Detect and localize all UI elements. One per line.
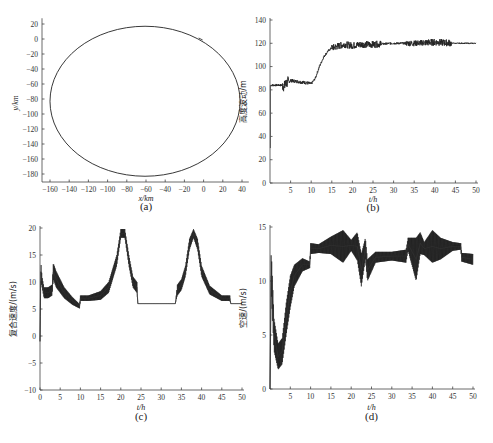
- x-tick-label: −60: [140, 185, 152, 194]
- x-tick-label: 10: [307, 392, 315, 401]
- y-tick-label: 40: [259, 132, 267, 141]
- y-tick-label: 10: [29, 278, 37, 287]
- y-tick-label: 20: [29, 224, 37, 233]
- y-tick-label: −20: [26, 50, 38, 59]
- panel-caption: (a): [140, 200, 153, 213]
- panel-b-height-fluctuation: 0204060801001201405101520253035404550t/h…: [238, 16, 480, 215]
- panel-c-combined-speed: −10−50510152005101520253035404550t/h复合速度…: [8, 224, 246, 424]
- x-tick-label: 20: [219, 185, 227, 194]
- x-tick-label: 35: [408, 392, 416, 401]
- x-tick-label: 25: [368, 392, 376, 401]
- mean-series: [40, 233, 242, 341]
- x-tick-label: 5: [58, 393, 62, 402]
- x-tick-label: 35: [178, 393, 186, 402]
- y-tick-label: 15: [29, 251, 37, 260]
- x-tick-label: 5: [288, 392, 292, 401]
- x-tick-label: −160: [42, 185, 58, 194]
- y-tick-label: −160: [23, 155, 39, 164]
- x-tick-label: 0: [202, 185, 206, 194]
- x-tick-label: 45: [218, 393, 226, 402]
- oscillation-band: [40, 229, 242, 341]
- y-tick-label: −100: [23, 110, 39, 119]
- y-tick-label: −140: [23, 140, 39, 149]
- x-tick-label: 50: [469, 392, 477, 401]
- panel-d-airspeed: 0510155101520253035404550t/h空速/(m/s)(d): [238, 223, 477, 424]
- x-tick-label: 40: [429, 392, 437, 401]
- x-tick-label: 20: [347, 392, 355, 401]
- x-tick-label: 50: [472, 186, 480, 195]
- x-tick-label: 5: [289, 186, 293, 195]
- y-tick-label: −180: [23, 170, 39, 179]
- x-tick-label: 15: [327, 392, 335, 401]
- oscillation-band: [270, 230, 473, 389]
- x-tick-label: 45: [452, 186, 460, 195]
- y-tick-label: 10: [259, 277, 267, 286]
- x-tick-label: 45: [449, 392, 457, 401]
- x-tick-label: −120: [81, 185, 97, 194]
- x-tick-label: 15: [97, 393, 105, 402]
- figure-canvas: 200−20−40−60−80−100−120−140−160−180−160−…: [0, 0, 493, 443]
- y-tick-label: −10: [24, 386, 36, 395]
- x-tick-label: 40: [431, 186, 439, 195]
- panel-caption: (b): [367, 201, 380, 214]
- x-tick-label: 25: [137, 393, 145, 402]
- y-tick-label: 120: [255, 39, 267, 48]
- y-tick-label: 0: [262, 385, 266, 394]
- y-tick-label: 20: [259, 155, 267, 164]
- y-axis-title: 空速/(m/s): [238, 288, 248, 328]
- x-tick-label: −20: [179, 185, 191, 194]
- y-tick-label: 80: [259, 85, 267, 94]
- y-tick-label: −60: [26, 80, 38, 89]
- y-tick-label: 0: [34, 35, 38, 44]
- x-tick-label: 25: [369, 186, 377, 195]
- x-tick-label: −80: [121, 185, 133, 194]
- y-tick-label: 5: [32, 305, 36, 314]
- x-tick-label: 50: [238, 393, 246, 402]
- panel-caption: (d): [365, 410, 378, 423]
- height-series: [271, 39, 476, 91]
- x-tick-label: −40: [159, 185, 171, 194]
- x-tick-label: 20: [349, 186, 357, 195]
- y-tick-label: 20: [31, 20, 39, 29]
- x-tick-label: −140: [61, 185, 77, 194]
- y-tick-label: 140: [255, 16, 267, 25]
- x-tick-label: 40: [198, 393, 206, 402]
- x-tick-label: 35: [410, 186, 418, 195]
- x-tick-label: 40: [238, 185, 246, 194]
- panel-a-trajectory: 200−20−40−60−80−100−120−140−160−180−160−…: [11, 18, 249, 213]
- y-tick-label: 0: [32, 332, 36, 341]
- y-axis-title: y/km: [11, 95, 20, 111]
- y-tick-label: −5: [28, 359, 36, 368]
- y-axis-title: 高度波动/m: [238, 80, 248, 123]
- x-tick-label: 0: [38, 393, 42, 402]
- x-tick-label: 30: [390, 186, 398, 195]
- x-tick-label: 15: [328, 186, 336, 195]
- x-tick-label: −100: [100, 185, 116, 194]
- panel-caption: (c): [135, 410, 148, 423]
- x-tick-label: 10: [77, 393, 85, 402]
- x-tick-label: 20: [117, 393, 125, 402]
- x-tick-label: 30: [157, 393, 165, 402]
- y-tick-label: 100: [255, 62, 267, 71]
- x-tick-label: 10: [307, 186, 315, 195]
- y-tick-label: 5: [262, 331, 266, 340]
- trajectory-ellipse: [50, 26, 240, 176]
- y-axis-title: 复合速度/(m/s): [8, 281, 18, 337]
- y-tick-label: −120: [23, 125, 39, 134]
- y-tick-label: −80: [26, 95, 38, 104]
- y-tick-label: 15: [259, 223, 267, 232]
- y-tick-label: 0: [262, 179, 266, 188]
- y-tick-label: −40: [26, 65, 38, 74]
- x-tick-label: 30: [388, 392, 396, 401]
- y-tick-label: 60: [259, 109, 267, 118]
